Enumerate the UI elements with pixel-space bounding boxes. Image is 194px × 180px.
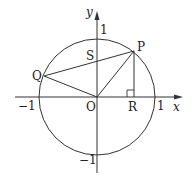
x-axis-arrow-icon [174, 95, 183, 100]
point-label-O: O [86, 101, 96, 113]
right-angle-marker [127, 90, 134, 97]
x-axis-label: x [173, 101, 180, 113]
tick-x-neg1: −1 [18, 100, 36, 112]
tick-y-1: 1 [100, 24, 108, 36]
diagram-graphics [0, 0, 194, 180]
point-label-R: R [128, 101, 137, 113]
unit-circle-diagram: x y −1 1 1 −1 O P Q R S [0, 0, 194, 180]
y-axis-label: y [86, 6, 93, 18]
point-label-Q: Q [32, 70, 42, 82]
point-label-S: S [86, 50, 94, 62]
y-axis-arrow-icon [95, 11, 100, 20]
segment-OQ [44, 76, 97, 97]
tick-x-1: 1 [157, 100, 165, 112]
tick-y-neg1: −1 [79, 154, 97, 166]
point-label-P: P [137, 41, 145, 53]
